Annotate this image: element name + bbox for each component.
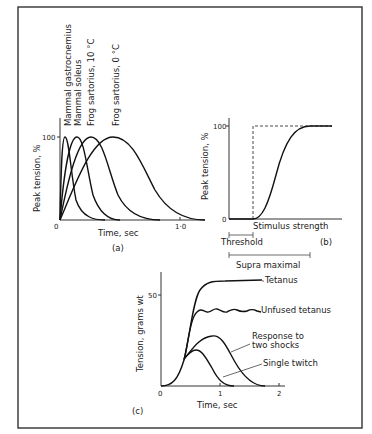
panel-b-tag: (b): [320, 237, 332, 247]
label-single-twitch: Single twitch: [263, 358, 318, 368]
panel-a-x-tick-0: 0: [54, 223, 58, 231]
panel-c-x-tick-0: 0: [158, 390, 162, 398]
curve-all-or-none-dashed: [253, 126, 332, 219]
panel-a-tag: (a): [112, 243, 124, 253]
curve-frog-sartorius-10c: [60, 137, 160, 220]
leader-single-twitch: [223, 364, 262, 377]
curve-frog-sartorius-0c: [60, 137, 205, 220]
panel-a: 100 0 1·0 Time, sec (a) Peak tension, % …: [32, 23, 205, 253]
curve-tetanus: [161, 280, 262, 386]
panel-c-x-tick-2: 2: [277, 390, 281, 398]
panel-c: 50 0 1 2 Time, sec (c) Tension, grams wt…: [132, 272, 332, 416]
label-two-shocks-line2: two shocks: [252, 340, 300, 350]
legend-frog-sartorius-0c: Frog sartorius, 0 °C: [111, 44, 121, 126]
panel-b: 100 0 Peak tension, % Stimulus strength …: [200, 118, 342, 270]
panel-a-y-label: Peak tension, %: [32, 144, 42, 212]
panel-c-x-label: Time, sec: [196, 400, 238, 410]
threshold-label: Threshold: [220, 237, 263, 247]
label-tetanus: Tetanus: [264, 275, 298, 285]
panel-a-y-tick-100: 100: [42, 134, 55, 142]
panel-a-x-label: Time, sec: [97, 228, 139, 238]
panel-c-y-tick-50: 50: [148, 292, 157, 300]
leader-two-shocks: [231, 344, 250, 352]
panel-c-y-label: Tension, grams wt: [135, 294, 145, 373]
curve-single-twitch: [184, 350, 234, 386]
curve-unfused-tetanus: [184, 309, 261, 360]
panel-c-tag: (c): [132, 406, 143, 416]
panel-b-y-tick-100: 100: [213, 123, 226, 131]
legend-mammal-gastrocnemius: Mammal gastrocnemius: [63, 23, 73, 126]
supramaximal-label: Supra maximal: [236, 260, 300, 270]
panel-b-y-tick-0: 0: [222, 216, 226, 224]
panel-a-x-tick-1: 1·0: [175, 223, 186, 231]
panel-b-y-label: Peak tension, %: [200, 132, 210, 200]
label-unfused-tetanus: Unfused tetanus: [261, 305, 332, 315]
panel-b-x-label: Stimulus strength: [253, 221, 328, 231]
panel-c-x-tick-1: 1: [218, 390, 222, 398]
curve-graded-response: [229, 126, 332, 219]
legend-frog-sartorius-10c: Frog sartorius, 10 °C: [86, 39, 96, 126]
figure: 100 0 1·0 Time, sec (a) Peak tension, % …: [0, 0, 372, 434]
legend-mammal-soleus: Mammal soleus: [73, 59, 83, 126]
